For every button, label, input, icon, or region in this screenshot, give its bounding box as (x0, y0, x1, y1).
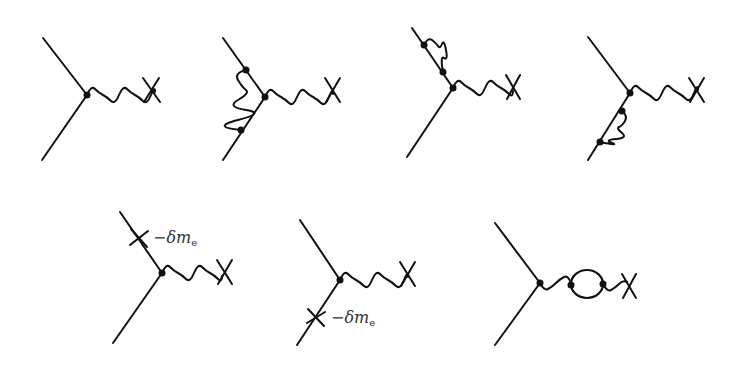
vertex-dot (440, 69, 447, 76)
vertex-dot (159, 270, 166, 277)
vertex-dot (627, 90, 634, 97)
photon-line (340, 273, 408, 287)
photon-line (630, 86, 698, 100)
vertex-dot (619, 108, 626, 115)
vertex-dot (568, 282, 575, 289)
photon-line (603, 281, 627, 290)
vertex-dot (597, 139, 604, 146)
diagram-mass-counterterm-upper: −δme (113, 212, 232, 343)
outgoing-electron-line (42, 95, 87, 160)
external-field-cross-icon (325, 78, 340, 102)
vertex-dot (262, 94, 269, 101)
counterterm-cross-icon (307, 309, 325, 326)
vertex-dot (421, 42, 428, 49)
counterterm-cross-icon (130, 229, 148, 247)
vertex-dot (600, 281, 607, 288)
incoming-electron-line (495, 223, 540, 283)
vertex-dot (84, 92, 91, 99)
external-field-cross-icon (622, 274, 636, 298)
photon-line (265, 90, 333, 104)
diagram-vacuum-polarization (495, 223, 636, 345)
outgoing-electron-line (407, 88, 453, 157)
outgoing-electron-line (588, 93, 630, 160)
incoming-electron-line (43, 38, 87, 95)
feynman-diagram-figure: −δme −δme (0, 0, 730, 365)
photon-line (453, 81, 513, 96)
fermion-loop (571, 270, 603, 298)
vertex-dot (537, 280, 544, 287)
vertex-dot (337, 277, 344, 284)
outgoing-electron-line (495, 283, 540, 345)
external-field-cross-icon (143, 78, 160, 102)
external-field-cross-icon (217, 260, 232, 284)
external-field-cross-icon (689, 78, 704, 102)
self-energy-photon-loop (600, 111, 626, 144)
diagram-mass-counterterm-lower: −δme (297, 220, 415, 345)
photon-line (162, 266, 222, 281)
vertex-dot (238, 127, 245, 134)
external-field-cross-icon (400, 262, 415, 286)
diagram-vertex-correction (223, 38, 340, 160)
vertex-dot (243, 67, 250, 74)
vertex-dot (450, 85, 457, 92)
diagram-self-energy-lower (588, 37, 704, 160)
incoming-electron-line (300, 220, 340, 280)
outgoing-electron-line (113, 273, 162, 343)
diagram-tree (42, 38, 160, 160)
photon-line (540, 277, 571, 290)
self-energy-photon-loop (424, 39, 447, 72)
diagram-self-energy-upper (407, 28, 520, 157)
counterterm-label: −δme (153, 228, 197, 248)
counterterm-label: −δme (331, 308, 375, 328)
incoming-electron-line (588, 37, 630, 93)
